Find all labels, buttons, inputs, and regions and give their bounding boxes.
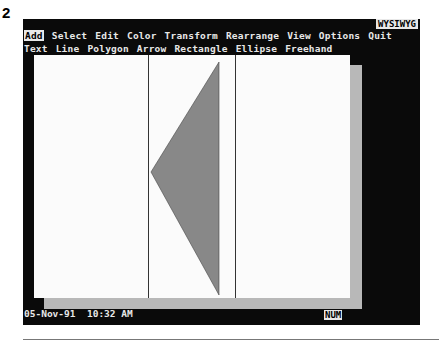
- status-date: 05-Nov-91: [24, 308, 75, 319]
- menu-item-view[interactable]: View: [287, 30, 311, 41]
- menu-item-color[interactable]: Color: [127, 30, 157, 41]
- submenu-item-rectangle[interactable]: Rectangle: [174, 43, 227, 54]
- menu-item-quit[interactable]: Quit: [368, 30, 392, 41]
- menu-item-options[interactable]: Options: [319, 30, 360, 41]
- menu-item-transform[interactable]: Transform: [165, 30, 218, 41]
- menu-item-rearrange[interactable]: Rearrange: [226, 30, 279, 41]
- drawing-canvas[interactable]: [34, 55, 350, 298]
- submenu-item-arrow[interactable]: Arrow: [137, 43, 167, 54]
- mode-indicator: WYSIWYG: [376, 19, 418, 29]
- main-menu: AddSelectEditColorTransformRearrangeView…: [24, 30, 400, 41]
- submenu-item-polygon[interactable]: Polygon: [87, 43, 128, 54]
- submenu-item-text[interactable]: Text: [24, 43, 48, 54]
- status-time: 10:32 AM: [87, 308, 133, 319]
- submenu-item-ellipse[interactable]: Ellipse: [236, 43, 277, 54]
- add-submenu: TextLinePolygonArrowRectangleEllipseFree…: [24, 43, 341, 54]
- submenu-item-line[interactable]: Line: [56, 43, 80, 54]
- menu-item-select[interactable]: Select: [52, 30, 88, 41]
- menu-item-edit[interactable]: Edit: [95, 30, 119, 41]
- figure-separator: [23, 339, 439, 340]
- status-bar: 05-Nov-91 10:32 AM: [24, 308, 133, 319]
- submenu-item-freehand[interactable]: Freehand: [285, 43, 332, 54]
- num-lock-indicator: NUM: [324, 310, 342, 320]
- figure-number: 2: [2, 4, 10, 21]
- app-screen: WYSIWYG AddSelectEditColorTransformRearr…: [23, 19, 420, 325]
- menu-item-add[interactable]: Add: [24, 30, 44, 41]
- triangle-polygon[interactable]: [34, 55, 350, 298]
